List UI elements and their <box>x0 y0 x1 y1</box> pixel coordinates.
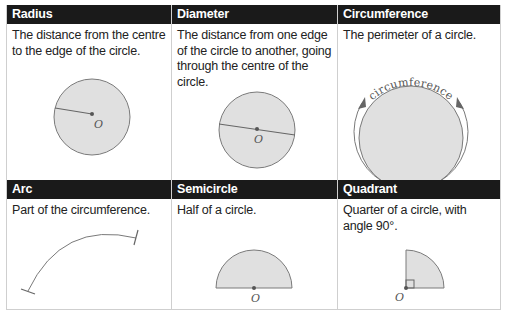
svg-text:O: O <box>395 291 404 304</box>
header-semicircle: Semicircle <box>172 180 337 199</box>
table-row: Radius The distance from the centre to t… <box>7 5 500 180</box>
table-row: Arc Part of the circumference. Semicircl… <box>7 180 500 310</box>
cell-quadrant: Quadrant Quarter of a circle, with angle… <box>338 180 500 310</box>
cell-radius: Radius The distance from the centre to t… <box>7 5 172 180</box>
header-arc: Arc <box>7 180 171 199</box>
header-circumference: Circumference <box>338 5 500 24</box>
cell-circumference: Circumference The perimeter of a circle.… <box>338 5 500 180</box>
svg-text:O: O <box>254 133 263 146</box>
semicircle-diagram: O <box>172 200 338 310</box>
cell-diameter: Diameter The distance from one edge of t… <box>172 5 338 180</box>
description-diameter: The distance from one edge of the circle… <box>172 24 337 90</box>
circle-terms-table: Radius The distance from the centre to t… <box>6 5 501 310</box>
diameter-diagram: O <box>172 85 338 195</box>
svg-text:O: O <box>251 292 260 305</box>
arc-diagram <box>7 200 172 310</box>
header-quadrant: Quadrant <box>338 180 500 199</box>
cell-semicircle: Semicircle Half of a circle. O <box>172 180 338 310</box>
circumference-diagram: circumference <box>338 35 500 180</box>
cell-arc: Arc Part of the circumference. <box>7 180 172 310</box>
radius-diagram: O <box>7 67 172 177</box>
description-radius: The distance from the centre to the edge… <box>7 24 171 59</box>
header-radius: Radius <box>7 5 171 24</box>
header-diameter: Diameter <box>172 5 337 24</box>
svg-text:O: O <box>94 118 103 131</box>
quadrant-diagram: O <box>338 200 500 310</box>
